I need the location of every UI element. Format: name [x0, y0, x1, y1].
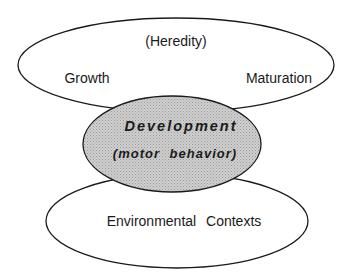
- environmental-contexts-label: Environmental Contexts: [107, 213, 262, 229]
- maturation-label: Maturation: [246, 70, 312, 86]
- heredity-label: (Heredity): [145, 33, 206, 49]
- motor-behavior-subtitle: (motor behavior): [113, 146, 237, 161]
- development-title: Development: [124, 118, 237, 134]
- growth-label: Growth: [64, 70, 109, 86]
- development-ellipse: [83, 96, 261, 192]
- development-diagram: (Heredity) Growth Maturation Development…: [0, 0, 352, 280]
